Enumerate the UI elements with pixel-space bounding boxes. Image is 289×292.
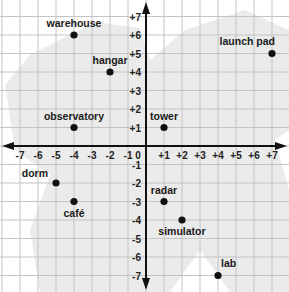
point-marker-icon[interactable]: [70, 31, 77, 38]
x-tick-label: +1: [158, 150, 170, 161]
point-label: radar: [151, 184, 177, 196]
x-tick-label: +5: [230, 150, 242, 161]
x-tick-label: +7: [266, 150, 278, 161]
point-label: launch pad: [220, 35, 275, 47]
coordinate-map: -7-6-5-4-3-2-10+1+2+3+4+5+6+7+7+6+5+4+3+…: [0, 0, 289, 292]
x-tick-label: +2: [176, 150, 188, 161]
arrow-up-icon: [142, 2, 150, 14]
x-tick-label: -5: [52, 150, 61, 161]
point-label: simulator: [158, 225, 205, 237]
y-tick-label: -3: [132, 197, 141, 208]
point-marker-icon[interactable]: [160, 124, 167, 131]
x-tick-label: +4: [212, 150, 224, 161]
point-label: tower: [150, 110, 178, 122]
x-tick-label: +6: [248, 150, 260, 161]
y-tick-label: -4: [132, 215, 141, 226]
y-tick-label: +3: [130, 86, 142, 97]
point-marker-icon[interactable]: [160, 198, 167, 205]
point-label: warehouse: [46, 17, 102, 29]
y-tick-label: +6: [130, 30, 142, 41]
point-marker-icon[interactable]: [214, 272, 221, 279]
x-tick-label: -3: [88, 150, 97, 161]
x-tick-label: -4: [70, 150, 79, 161]
x-tick-label: -2: [106, 150, 115, 161]
x-tick-label: +3: [194, 150, 206, 161]
y-tick-label: -6: [132, 252, 141, 263]
x-tick-label: -7: [16, 150, 25, 161]
y-tick-label: -1: [132, 160, 141, 171]
y-tick-label: -2: [132, 178, 141, 189]
point-label: hangar: [92, 54, 127, 66]
point-label: café: [63, 207, 84, 219]
y-tick-label: +5: [130, 49, 142, 60]
arrow-left-icon: [2, 142, 14, 150]
point-label: lab: [221, 257, 236, 269]
point-marker-icon[interactable]: [52, 179, 59, 186]
point-marker-icon[interactable]: [268, 50, 275, 57]
point-label: dorm: [22, 167, 48, 179]
arrow-right-icon: [275, 142, 287, 150]
point-marker-icon[interactable]: [70, 198, 77, 205]
point-label: observatory: [44, 110, 104, 122]
point-marker-icon[interactable]: [70, 124, 77, 131]
point-marker-icon[interactable]: [178, 216, 185, 223]
y-tick-label: +4: [130, 67, 142, 78]
y-tick-label: -7: [132, 271, 141, 282]
y-tick-label: -5: [132, 234, 141, 245]
map-canvas: -7-6-5-4-3-2-10+1+2+3+4+5+6+7+7+6+5+4+3+…: [0, 0, 289, 292]
y-tick-label: +2: [130, 104, 142, 115]
x-tick-label: -6: [34, 150, 43, 161]
point-marker-icon[interactable]: [106, 68, 113, 75]
y-tick-label: +1: [130, 123, 142, 134]
y-tick-label: +7: [130, 12, 142, 23]
